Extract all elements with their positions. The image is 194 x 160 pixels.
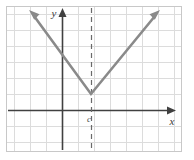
graph-figure: y x c	[0, 0, 194, 160]
x-axis-label: x	[169, 115, 175, 127]
coordinate-plane-svg: y x c	[0, 0, 194, 160]
y-axis-label: y	[51, 7, 57, 19]
vertex-x-label: c	[87, 114, 91, 124]
